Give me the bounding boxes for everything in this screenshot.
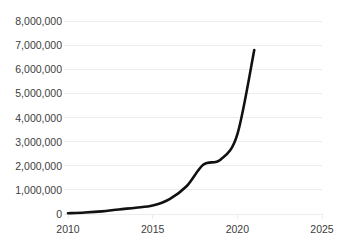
x-axis-tick-label: 2010 bbox=[56, 224, 79, 235]
x-axis-tick-label: 2025 bbox=[310, 224, 333, 235]
data-line-series-1 bbox=[68, 50, 254, 213]
x-axis-labels: 2010201520202025 bbox=[0, 224, 343, 240]
chart-container: 8,000,0007,000,0006,000,0005,000,0004,00… bbox=[0, 0, 343, 244]
x-axis-ticks bbox=[68, 214, 322, 219]
x-axis-tick-label: 2015 bbox=[141, 224, 164, 235]
plot-area bbox=[0, 0, 343, 244]
x-axis-tick-label: 2020 bbox=[226, 224, 249, 235]
gridlines bbox=[64, 21, 322, 214]
